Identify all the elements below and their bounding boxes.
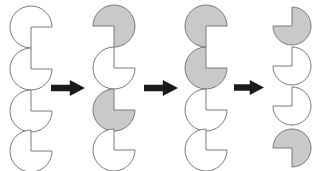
- shape-1-4: [8, 128, 54, 171]
- shape-3-2: [183, 45, 229, 91]
- wedge-bottom-right: [185, 5, 227, 47]
- wedge-top-right: [10, 90, 52, 132]
- shape-3-1: [183, 3, 229, 49]
- wedge-top-left: [273, 87, 311, 125]
- shape-1-1: [8, 4, 54, 50]
- wedge-top-left: [273, 47, 311, 85]
- arrow-right-icon: [234, 80, 264, 95]
- wedge-top-right: [185, 129, 227, 171]
- arrow-right-icon: [144, 80, 178, 96]
- arrow-right-icon: [51, 80, 85, 96]
- shape-sequence-figure: [0, 0, 319, 171]
- wedge-top-right: [10, 130, 52, 171]
- arrow-3: [234, 80, 264, 95]
- shape-4-4: [271, 127, 313, 169]
- shape-1-2: [8, 46, 54, 92]
- wedge-top-right: [185, 89, 227, 131]
- wedge-top-right: [93, 129, 135, 171]
- shape-4-3: [271, 85, 313, 127]
- shape-2-2: [91, 45, 137, 91]
- shape-2-1: [91, 3, 137, 49]
- shape-3-4: [183, 127, 229, 171]
- shape-4-1: [271, 5, 313, 47]
- shape-2-4: [91, 127, 137, 171]
- wedge-top-left: [273, 7, 311, 45]
- wedge-top-right: [93, 47, 135, 89]
- arrow-2: [144, 80, 178, 96]
- wedge-bottom-left: [273, 129, 311, 167]
- wedge-bottom-right: [10, 6, 52, 48]
- shape-4-2: [271, 45, 313, 87]
- arrow-1: [51, 80, 85, 96]
- wedge-bottom-left: [93, 5, 135, 47]
- wedge-top-right: [93, 89, 135, 131]
- wedge-top-right: [185, 47, 227, 89]
- wedge-top-right: [10, 48, 52, 90]
